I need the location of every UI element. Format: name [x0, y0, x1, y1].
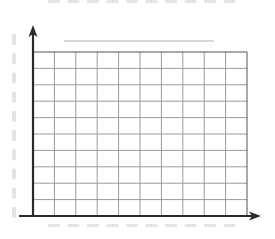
placeholder-dash — [107, 0, 119, 3]
placeholder-dash — [107, 224, 119, 227]
placeholder-dash — [12, 92, 16, 103]
top-label-placeholders — [48, 0, 236, 3]
placeholder-dash — [68, 0, 80, 3]
y-label-placeholders — [12, 34, 16, 218]
placeholder-dash — [48, 224, 60, 227]
placeholder-dash — [12, 207, 16, 218]
placeholder-dash — [146, 0, 158, 3]
placeholder-dash — [12, 130, 16, 141]
placeholder-dash — [126, 0, 138, 3]
placeholder-dash — [146, 224, 158, 227]
placeholder-dash — [224, 224, 236, 227]
placeholder-dash — [185, 0, 197, 3]
placeholder-dash — [48, 0, 60, 3]
placeholder-dash — [12, 53, 16, 64]
placeholder-dash — [12, 149, 16, 160]
placeholder-dash — [12, 188, 16, 199]
placeholder-dash — [224, 0, 236, 3]
placeholder-dash — [204, 224, 216, 227]
placeholder-dash — [165, 224, 177, 227]
placeholder-dash — [126, 224, 138, 227]
placeholder-dash — [87, 224, 99, 227]
placeholder-dash — [165, 0, 177, 3]
placeholder-dash — [185, 224, 197, 227]
placeholder-dash — [12, 168, 16, 179]
placeholder-dash — [68, 224, 80, 227]
placeholder-dash — [12, 72, 16, 83]
placeholder-dash — [12, 111, 16, 122]
x-label-placeholders — [48, 224, 236, 227]
placeholder-dash — [204, 0, 216, 3]
blank-chart — [0, 0, 275, 239]
placeholder-dash — [87, 0, 99, 3]
placeholder-dash — [12, 34, 16, 45]
plot-grid — [33, 52, 247, 216]
